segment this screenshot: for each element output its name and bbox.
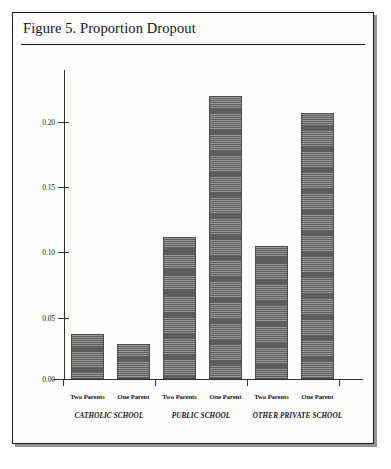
x-tick-mark-left-edge: [63, 379, 64, 386]
y-tick-label-2: 0.10: [13, 248, 55, 257]
x-tick-mark-right-edge: [339, 379, 340, 386]
x-tick-mark-group-1-2: [155, 379, 156, 386]
y-tick-mark-4: [58, 122, 69, 123]
category-label-4: Two Parents: [245, 393, 298, 400]
bar-chart-plot-area: 0.00 0.05 0.10 0.15 0.20 Two Parents One…: [13, 13, 375, 445]
category-label-3: One Parent: [200, 393, 251, 400]
y-axis-line: [64, 70, 65, 380]
bar-catholic-one-parent: [117, 344, 150, 379]
category-label-1: One Parent: [108, 393, 159, 400]
category-label-5: One Parent: [292, 393, 343, 400]
y-tick-label-0: 0.00: [13, 375, 55, 384]
y-tick-label-3: 0.15: [13, 183, 55, 192]
group-label-catholic-school: CATHOLIC SCHOOL: [54, 412, 164, 420]
group-label-other-private-school: OTHER PRIVATE SCHOOL: [235, 412, 360, 420]
y-tick-mark-1: [58, 318, 69, 319]
y-tick-mark-3: [58, 187, 69, 188]
y-tick-mark-2: [58, 252, 69, 253]
figure-frame: Figure 5. Proportion Dropout 0.00 0.05 0…: [12, 12, 374, 444]
x-axis-line: [53, 379, 363, 380]
bar-catholic-two-parents: [71, 334, 104, 379]
bar-public-one-parent: [209, 96, 242, 379]
bar-other-private-one-parent: [301, 113, 334, 379]
x-tick-mark-group-2-3: [247, 379, 248, 386]
category-label-2: Two Parents: [153, 393, 206, 400]
y-tick-label-4: 0.20: [13, 118, 55, 127]
bar-other-private-two-parents: [255, 246, 288, 379]
category-label-0: Two Parents: [61, 393, 114, 400]
bar-public-two-parents: [163, 237, 196, 379]
y-tick-label-1: 0.05: [13, 314, 55, 323]
